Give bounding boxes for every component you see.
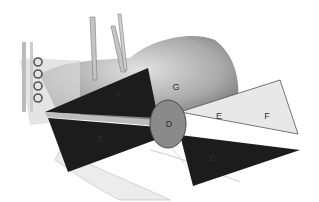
- illustration: [0, 0, 319, 202]
- label-a: A: [115, 91, 121, 100]
- diagram-canvas: A B C D E F G: [0, 0, 319, 202]
- label-d: D: [166, 120, 173, 129]
- zone-c: [180, 135, 300, 186]
- label-g: G: [172, 83, 179, 92]
- label-f: F: [264, 112, 270, 121]
- label-b: B: [97, 135, 103, 144]
- label-e: E: [216, 112, 222, 121]
- label-c: C: [210, 154, 217, 163]
